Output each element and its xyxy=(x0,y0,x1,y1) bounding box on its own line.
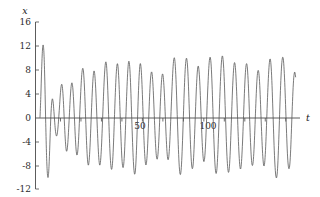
y-axis-label: x xyxy=(22,5,28,16)
y-tick-label: 12 xyxy=(20,41,31,51)
y-tick-label: -8 xyxy=(22,161,31,171)
chart-background xyxy=(0,0,320,197)
y-tick-label: -4 xyxy=(22,137,31,147)
y-tick-label: 4 xyxy=(25,89,31,99)
x-tick-label: 50 xyxy=(134,121,146,131)
x-axis-label: t xyxy=(306,112,310,123)
time-series-chart: 16 12 8 4 0 -4 -8 -12 50 100 x t xyxy=(0,0,320,197)
y-tick-label: 8 xyxy=(25,65,31,75)
y-tick-label: -12 xyxy=(17,184,32,194)
y-tick-label: 0 xyxy=(25,113,31,123)
y-tick-label: 16 xyxy=(20,17,32,27)
